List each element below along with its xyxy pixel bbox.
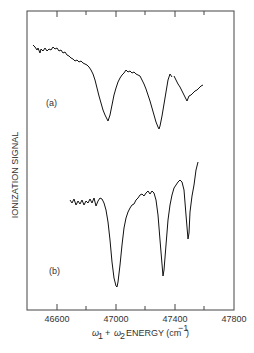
trace-b-label: (b) bbox=[49, 266, 60, 276]
trace-b bbox=[70, 162, 198, 287]
svg-text:47800: 47800 bbox=[221, 314, 246, 324]
trace-a bbox=[33, 45, 172, 129]
trace-a-label: (a) bbox=[46, 98, 57, 108]
spectrum-chart: 46600 47000 47400 47800 ω 1 + ω 2 ENERGY… bbox=[0, 0, 254, 353]
svg-text:47000: 47000 bbox=[103, 314, 128, 324]
svg-text:2: 2 bbox=[120, 331, 125, 341]
svg-text:): ) bbox=[186, 328, 189, 338]
y-axis-label: IONIZATION SIGNAL bbox=[10, 132, 20, 218]
svg-text:46600: 46600 bbox=[44, 314, 69, 324]
x-axis-label: ω 1 + ω 2 ENERGY (cm −1 ) bbox=[92, 323, 189, 341]
svg-text:+: + bbox=[105, 328, 110, 338]
svg-text:1: 1 bbox=[98, 331, 103, 341]
svg-text:ENERGY (cm: ENERGY (cm bbox=[126, 328, 181, 338]
x-axis-tick-labels: 46600 47000 47400 47800 bbox=[44, 314, 246, 324]
trace-a-tail bbox=[174, 76, 203, 101]
x-axis-ticks bbox=[57, 11, 204, 310]
